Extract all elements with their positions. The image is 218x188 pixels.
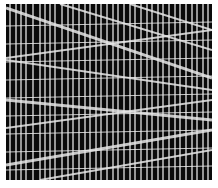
grid-pattern-image xyxy=(0,0,218,188)
black-field xyxy=(6,4,212,180)
